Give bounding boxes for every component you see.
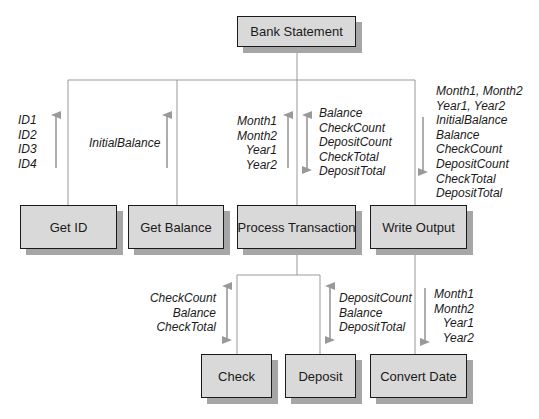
node-bank-statement: Bank Statement (237, 16, 356, 47)
param: CheckTotal (140, 320, 216, 335)
param: Month1 (232, 114, 277, 129)
param: DepositCount (319, 135, 392, 150)
node-label: Get Balance (140, 220, 212, 235)
node-label: Write Output (382, 220, 455, 235)
param: ID2 (18, 128, 37, 143)
param: Balance (140, 306, 216, 321)
param: CheckCount (436, 142, 523, 157)
param: ID3 (18, 142, 37, 157)
param: Year2 (432, 331, 474, 346)
param: CheckCount (140, 291, 216, 306)
param: Balance (436, 128, 523, 143)
param: CheckTotal (319, 150, 392, 165)
node-write-output: Write Output (370, 205, 467, 249)
flow-label-check: CheckCount Balance CheckTotal (140, 291, 216, 335)
param: CheckCount (319, 121, 392, 136)
param: DepositTotal (436, 186, 523, 201)
param: Month1, Month2 (436, 84, 523, 99)
param: Month1 (432, 287, 474, 302)
param: DepositTotal (319, 164, 392, 179)
node-deposit: Deposit (285, 354, 356, 398)
param: Balance (319, 106, 392, 121)
param: Month2 (432, 302, 474, 317)
param: Balance (339, 306, 412, 321)
flow-label-get-balance: InitialBalance (89, 136, 160, 151)
node-get-balance: Get Balance (128, 205, 224, 249)
param: Year1 (432, 316, 474, 331)
param: Month2 (232, 129, 277, 144)
param: Year1 (232, 143, 277, 158)
flow-label-write-output: Month1, Month2 Year1, Year2 InitialBalan… (436, 84, 523, 201)
node-check: Check (201, 354, 272, 398)
node-label: Convert Date (380, 369, 457, 384)
param: DepositCount (436, 157, 523, 172)
node-label: Get ID (50, 220, 88, 235)
flow-label-deposit: DepositCount Balance DepositTotal (339, 291, 412, 335)
node-get-id: Get ID (20, 205, 117, 249)
flow-label-get-id: ID1 ID2 ID3 ID4 (18, 113, 37, 171)
param: ID4 (18, 157, 37, 172)
node-convert-date: Convert Date (370, 354, 467, 398)
param: DepositCount (339, 291, 412, 306)
param: DepositTotal (339, 320, 412, 335)
param: InitialBalance (89, 136, 160, 151)
param: Year1, Year2 (436, 99, 523, 114)
node-label: Deposit (298, 369, 342, 384)
node-process-transaction: Process Transaction (237, 205, 356, 249)
node-label: Check (218, 369, 255, 384)
param: CheckTotal (436, 172, 523, 187)
flow-label-process-transaction-inout: Balance CheckCount DepositCount CheckTot… (319, 106, 392, 179)
param: InitialBalance (436, 113, 523, 128)
structure-chart: Bank Statement Get ID Get Balance Proces… (0, 0, 539, 419)
param: ID1 (18, 113, 37, 128)
node-label: Process Transaction (238, 220, 356, 235)
node-label: Bank Statement (250, 24, 343, 39)
flow-label-process-transaction-in: Month1 Month2 Year1 Year2 (232, 114, 277, 172)
flow-label-convert-date: Month1 Month2 Year1 Year2 (432, 287, 474, 345)
param: Year2 (232, 158, 277, 173)
